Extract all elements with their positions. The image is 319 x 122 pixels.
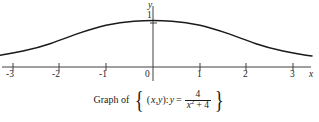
fraction: 4 x2 + 4	[185, 90, 211, 111]
caption-row: Graph of { ( x , y ) : y = 4 x2 + 4 }	[93, 90, 225, 111]
x-tick-label-2: 2	[243, 70, 248, 80]
caption-colon: :	[166, 95, 169, 105]
fraction-denominator: x2 + 4	[185, 101, 211, 111]
open-brace: {	[135, 90, 144, 110]
caption-lhs: y	[170, 95, 174, 105]
y-tick-label-1: 1	[147, 11, 152, 21]
caption-paren-open: (	[147, 95, 150, 105]
figure-caption: Graph of { ( x , y ) : y = 4 x2 + 4 }	[0, 90, 319, 111]
x-tick-label-3: 3	[290, 70, 295, 80]
x-tick-label-minus2: -2	[52, 70, 60, 80]
x-tick-label-1: 1	[197, 70, 202, 80]
x-axis-label: x	[309, 70, 313, 80]
x-tick-label-zero: 0	[145, 70, 150, 80]
graph-figure: -3 -2 -1 0 1 2 3 1 y x Graph of { ( x , …	[0, 0, 319, 122]
caption-equals: =	[176, 95, 182, 105]
y-axis-label: y	[148, 1, 152, 11]
function-curve	[0, 21, 312, 56]
plot-area	[0, 0, 319, 92]
caption-lead: Graph of	[93, 95, 129, 105]
x-tick-label-minus1: -1	[99, 70, 107, 80]
denominator-exponent: 2	[191, 98, 194, 105]
close-brace: }	[215, 90, 224, 110]
x-tick-label-minus3: -3	[6, 70, 14, 80]
denominator-tail: + 4	[197, 100, 209, 110]
